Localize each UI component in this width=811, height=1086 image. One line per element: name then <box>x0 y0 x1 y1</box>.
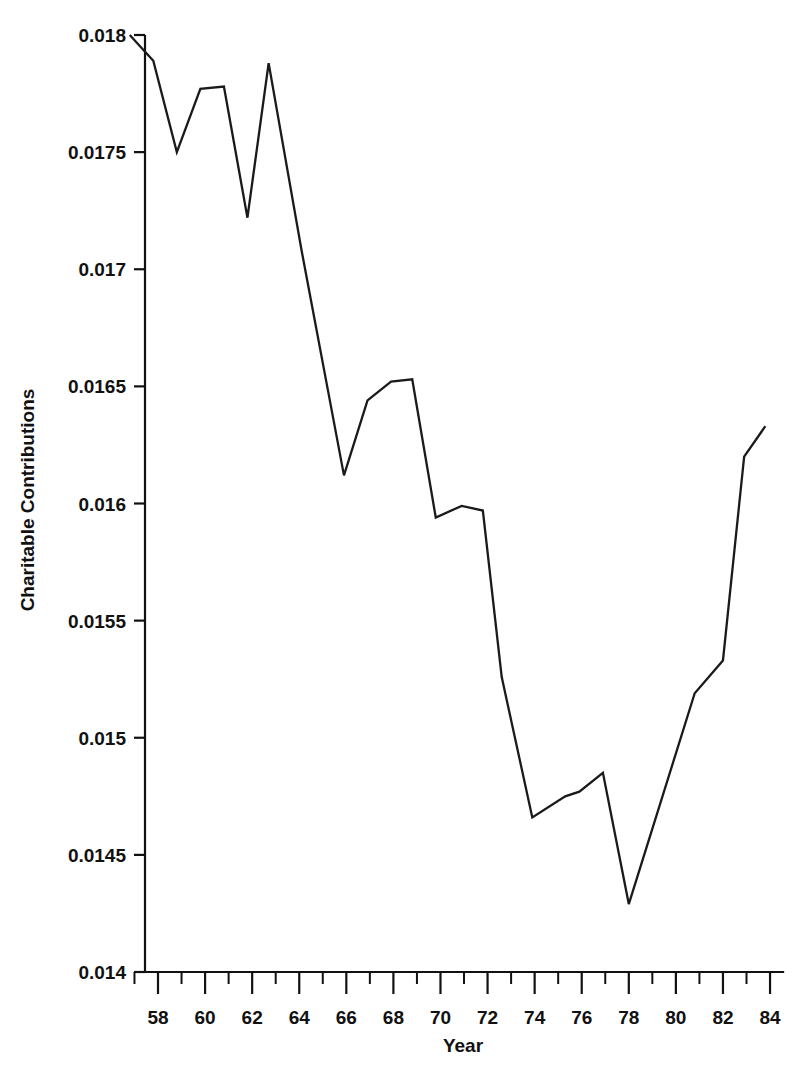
y-axis-tick-label: 0.015 <box>78 728 126 749</box>
x-axis-tick-label: 84 <box>759 1007 781 1028</box>
chart-container: 0.0180.01750.0170.01650.0160.01550.0150.… <box>0 0 811 1086</box>
line-chart: 0.0180.01750.0170.01650.0160.01550.0150.… <box>0 0 811 1086</box>
y-axis-title: Charitable Contributions <box>17 389 38 612</box>
x-axis-tick-label: 64 <box>289 1007 311 1028</box>
y-axis-tick-label: 0.0155 <box>68 611 127 632</box>
x-axis-tick-label: 80 <box>665 1007 686 1028</box>
y-axis-tick-label: 0.017 <box>78 259 126 280</box>
x-axis-tick-label: 62 <box>242 1007 263 1028</box>
x-axis-tick-label: 74 <box>524 1007 546 1028</box>
x-axis-tick-label: 78 <box>618 1007 639 1028</box>
y-axis-tick-label: 0.0165 <box>68 376 127 397</box>
x-axis-title: Year <box>443 1035 484 1056</box>
x-axis-tick-label: 58 <box>147 1007 168 1028</box>
x-axis-tick-label: 72 <box>477 1007 498 1028</box>
x-axis-tick-label: 66 <box>336 1007 357 1028</box>
y-axis-tick-label: 0.016 <box>78 494 126 515</box>
y-axis-tick-label: 0.0175 <box>68 142 127 163</box>
x-axis-tick-label: 60 <box>195 1007 216 1028</box>
x-axis-tick-label: 68 <box>383 1007 404 1028</box>
x-axis-tick-label: 76 <box>571 1007 592 1028</box>
y-axis-tick-label: 0.0145 <box>68 845 127 866</box>
x-axis-tick-label: 82 <box>712 1007 733 1028</box>
x-axis-tick-label: 70 <box>430 1007 451 1028</box>
y-axis-tick-label: 0.018 <box>78 25 126 46</box>
y-axis-tick-label: 0.014 <box>78 962 126 983</box>
